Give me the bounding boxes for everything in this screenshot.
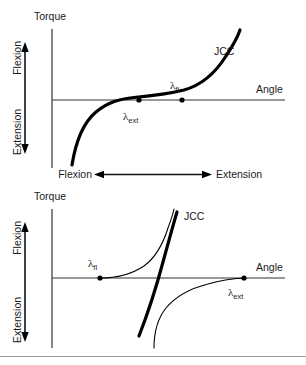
bottom-panel-jcc-label: JCC xyxy=(184,210,205,222)
lambda-subscript: fl xyxy=(93,263,97,272)
bottom-panel-x-axis-title: Angle xyxy=(256,261,283,273)
lambda-subscript: ext xyxy=(233,292,244,301)
arrow-head-right-icon xyxy=(202,171,212,178)
top-panel-x-axis-title: Angle xyxy=(256,83,283,95)
bottom-panel-lambda-ext-label: λext xyxy=(228,286,244,301)
top-panel: Flexion Extension Torque Angle JCC λext … xyxy=(11,10,285,168)
top-panel-lambda-ext-label: λext xyxy=(123,110,139,125)
bottom-panel: Flexion Extension Torque Angle JCC λfl λ… xyxy=(11,190,285,348)
top-panel-y-axis-title: Torque xyxy=(34,10,66,22)
bottom-panel-lambda-fl-label: λfl xyxy=(88,257,97,272)
middle-direction-axis: Flexion Extension xyxy=(58,168,262,180)
bottom-panel-y-axis-title: Torque xyxy=(34,190,66,202)
figure-container: Flexion Extension Torque Angle JCC λext … xyxy=(0,0,306,365)
lambda-subscript: ext xyxy=(128,116,139,125)
top-panel-extension-label: Extension xyxy=(11,109,23,155)
middle-extension-label: Extension xyxy=(216,168,262,180)
bottom-panel-flexion-label: Flexion xyxy=(11,221,23,255)
torque-angle-figure: Flexion Extension Torque Angle JCC λext … xyxy=(0,0,306,365)
top-panel-lambda-fl-point xyxy=(179,97,184,102)
lambda-subscript: fl xyxy=(175,85,179,94)
bottom-panel-lambda-ext-point xyxy=(241,275,246,280)
bottom-panel-jcc-curve xyxy=(139,212,177,336)
arrow-head-left-icon xyxy=(94,171,104,178)
bottom-panel-extension-label: Extension xyxy=(11,297,23,343)
bottom-panel-lambda-fl-point xyxy=(97,275,102,280)
top-panel-jcc-label: JCC xyxy=(214,45,235,57)
top-panel-flexion-label: Flexion xyxy=(11,41,23,75)
footer-divider xyxy=(0,356,306,357)
middle-flexion-label: Flexion xyxy=(58,168,92,180)
top-panel-lambda-ext-point xyxy=(136,97,141,102)
